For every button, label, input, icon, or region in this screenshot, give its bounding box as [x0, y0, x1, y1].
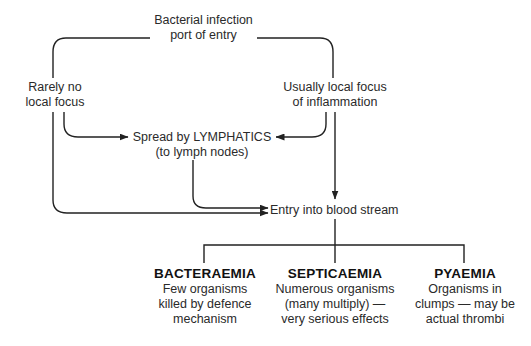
outcome-text-line: Few organisms: [149, 282, 261, 297]
node-text-line: Spread by LYMPHATICS: [129, 130, 275, 145]
node-text-line: Bacterial infection: [152, 13, 255, 28]
outcome-text-line: actual thrombi: [414, 312, 516, 327]
node-spread-by-lymphatics: Spread by LYMPHATICS (to lymph nodes): [129, 130, 275, 160]
outcome-text-line: very serious effects: [271, 312, 399, 327]
node-text-line: Rarely no: [18, 80, 92, 95]
node-text-line: of inflammation: [280, 95, 390, 110]
edge-lymph-to-blood: [193, 160, 268, 208]
edge-rarely-to-blood: [53, 112, 268, 213]
outcome-title: PYAEMIA: [414, 266, 516, 282]
outcome-title: SEPTICAEMIA: [271, 266, 399, 282]
outcome-pyaemia: PYAEMIA Organisms in clumps — may be act…: [414, 266, 516, 327]
outcome-title: BACTERAEMIA: [149, 266, 261, 282]
outcome-bracket: [204, 245, 464, 263]
outcome-text-line: Numerous organisms: [271, 282, 399, 297]
outcome-text-line: killed by defence: [149, 297, 261, 312]
node-usually-local-focus: Usually local focus of inflammation: [280, 80, 390, 110]
outcome-bacteraemia: BACTERAEMIA Few organisms killed by defe…: [149, 266, 261, 327]
outcome-text-line: (many multiply) —: [271, 297, 399, 312]
outcome-text-line: clumps — may be: [414, 297, 516, 312]
node-text-line: port of entry: [152, 28, 255, 43]
node-text-line: Usually local focus: [280, 80, 390, 95]
edge-start-to-rarely: [53, 38, 150, 78]
node-bacterial-infection: Bacterial infection port of entry: [152, 13, 255, 43]
node-text-line: Entry into blood stream: [270, 203, 408, 218]
outcome-text-line: Organisms in: [414, 282, 516, 297]
edge-usually-to-lymph: [276, 112, 326, 137]
node-text-line: local focus: [18, 95, 92, 110]
edge-start-to-usually: [257, 38, 333, 78]
outcome-text-line: mechanism: [149, 312, 261, 327]
node-text-line: (to lymph nodes): [129, 145, 275, 160]
edge-rarely-to-lymph: [64, 112, 128, 137]
outcome-septicaemia: SEPTICAEMIA Numerous organisms (many mul…: [271, 266, 399, 327]
node-rarely-no-local-focus: Rarely no local focus: [18, 80, 92, 110]
node-entry-into-blood-stream: Entry into blood stream: [270, 203, 408, 218]
